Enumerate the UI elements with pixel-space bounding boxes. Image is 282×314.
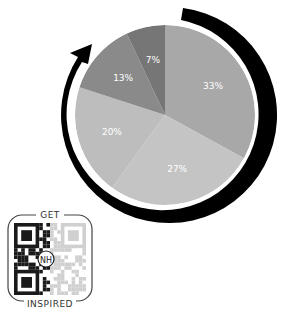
badge-top-text: GET xyxy=(40,210,60,220)
pie-slice-label: 13% xyxy=(113,73,133,83)
badge-bottom-text: INSPIRED xyxy=(27,299,73,309)
pie-slice-label: 27% xyxy=(167,164,187,174)
pie-slice-label: 20% xyxy=(102,127,122,137)
pie-slices xyxy=(75,25,255,205)
nh-logo-text: NH xyxy=(40,256,52,265)
pie-slice-label: 7% xyxy=(146,55,161,65)
qr-code-badge[interactable]: GET INSPIRED NH xyxy=(6,209,94,309)
pie-slice-label: 33% xyxy=(203,81,223,91)
